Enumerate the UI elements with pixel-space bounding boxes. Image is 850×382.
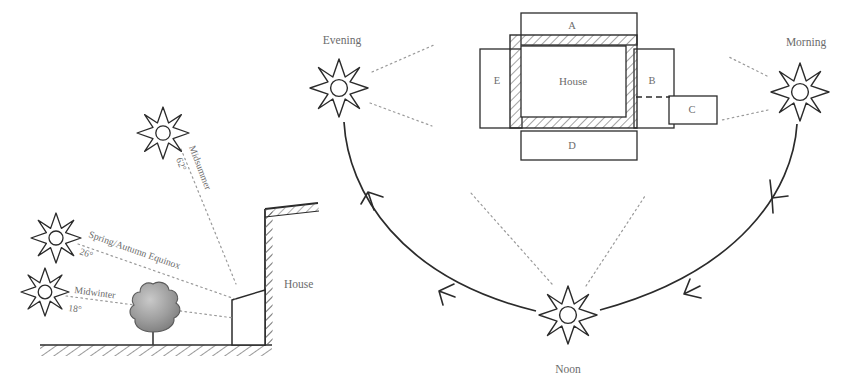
house-wall-section	[232, 203, 319, 346]
midwinter-season-label: Midwinter	[74, 284, 117, 300]
evening-ray-lower	[370, 103, 432, 126]
noon-ray-left	[470, 192, 552, 284]
sunpath-midwinter: Midwinter 18°	[21, 268, 234, 318]
arrow-noon-left	[439, 284, 455, 305]
plan-house-label: House	[559, 75, 587, 87]
noon-label: Noon	[555, 363, 581, 375]
arc-noon-to-evening	[344, 122, 536, 311]
sunpath-equinox: Spring/Autumn Equinox 26°	[31, 213, 238, 300]
evening-label: Evening	[323, 34, 362, 47]
morning-label: Morning	[786, 36, 827, 49]
sun-icon-evening	[310, 59, 368, 117]
arc-arrowheads	[361, 180, 788, 305]
sun-icon-midwinter	[21, 268, 69, 316]
equinox-season-label: Spring/Autumn Equinox	[87, 229, 182, 272]
plan-zone-D[interactable]	[521, 131, 637, 160]
sun-position-evening: Evening	[310, 34, 434, 126]
ground-line	[40, 345, 272, 356]
sun-icon-noon	[539, 286, 597, 344]
solar-diagram-canvas: House Midsummer 62° Spring/Autumn Equino…	[0, 0, 850, 382]
sun-icon-morning	[771, 63, 829, 121]
midsummer-angle-label: 62°	[174, 156, 188, 172]
arrow-down-to-noon	[684, 279, 701, 298]
plan-zone-B-label: B	[648, 75, 655, 86]
plan-view-group: A E B C D House	[480, 13, 717, 160]
midsummer-season-label: Midsummer	[187, 144, 213, 192]
morning-ray-lower	[722, 110, 768, 120]
plan-zone-C-label: C	[688, 104, 695, 115]
section-house-label: House	[284, 278, 313, 290]
deciduous-tree	[130, 282, 180, 345]
noon-ray-right	[586, 196, 645, 286]
plan-zone-B[interactable]	[634, 49, 674, 128]
plan-zone-D-label: D	[568, 140, 576, 151]
sun-position-noon: Noon	[470, 192, 645, 375]
midsummer-ray	[181, 149, 236, 284]
sun-position-morning: Morning	[722, 36, 829, 121]
diagram-svg: House Midsummer 62° Spring/Autumn Equino…	[0, 0, 850, 382]
section-view-group: House Midsummer 62° Spring/Autumn Equino…	[21, 107, 319, 356]
sun-icon-midsummer	[137, 107, 189, 159]
midwinter-angle-label: 18°	[68, 303, 83, 315]
sun-icon-equinox	[31, 213, 81, 263]
plan-zone-A-label: A	[568, 20, 576, 31]
plan-zone-E-label: E	[494, 75, 500, 86]
morning-ray-upper	[727, 56, 767, 76]
evening-ray-upper	[372, 45, 434, 72]
